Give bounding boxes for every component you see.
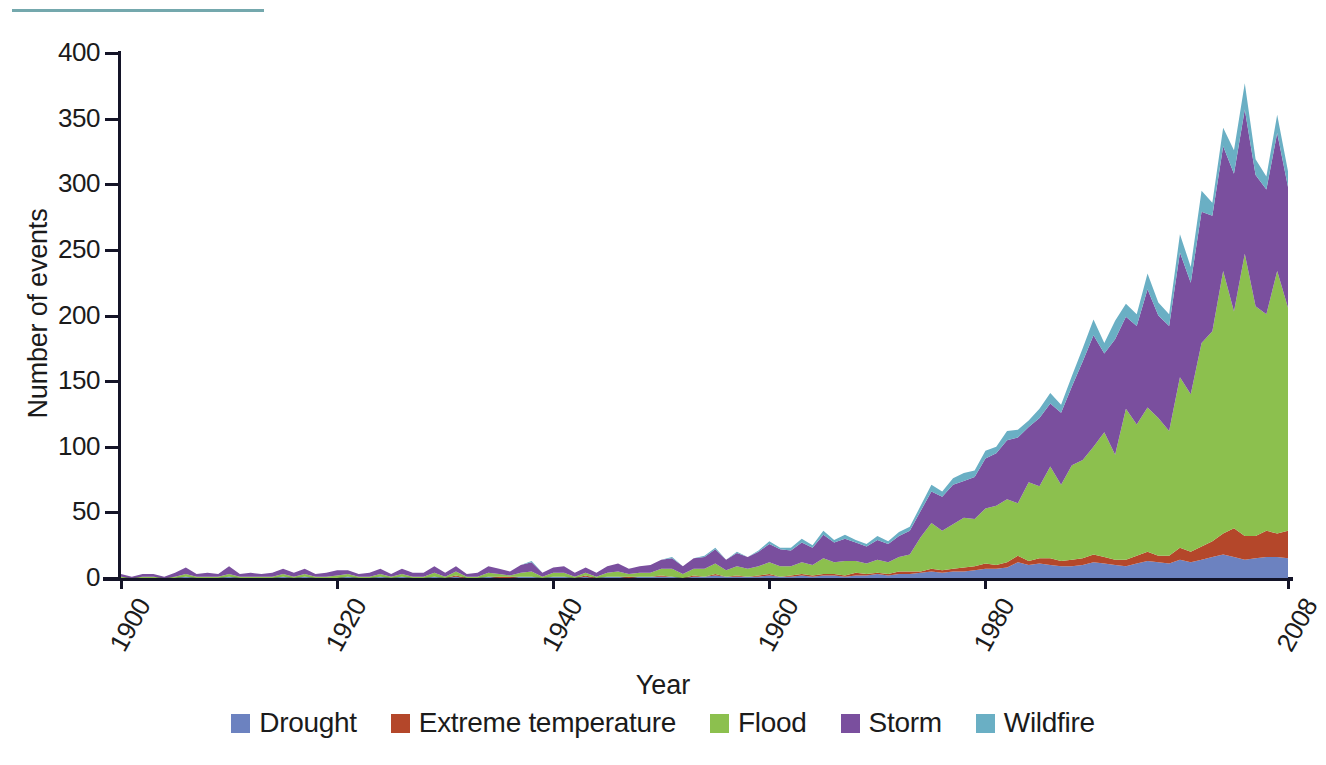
- y-tick-mark: [105, 183, 119, 186]
- chart-legend: DroughtExtreme temperatureFloodStormWild…: [0, 709, 1326, 737]
- x-tick-mark: [1287, 578, 1290, 589]
- legend-item-storm[interactable]: Storm: [841, 709, 942, 737]
- y-tick-label: 200: [30, 302, 100, 328]
- legend-swatch-icon: [710, 714, 729, 733]
- y-tick-mark: [105, 446, 119, 449]
- x-tick-label: 2008: [1272, 594, 1322, 655]
- stacked-area-plot: [121, 53, 1288, 578]
- legend-label: Storm: [869, 709, 942, 737]
- x-tick-mark: [120, 578, 123, 589]
- legend-label: Drought: [259, 709, 357, 737]
- x-tick-label: 1940: [537, 594, 587, 655]
- y-tick-label: 50: [30, 498, 100, 524]
- top-divider-rule: [12, 9, 264, 12]
- legend-swatch-icon: [391, 714, 410, 733]
- plot-area: [121, 53, 1288, 578]
- legend-swatch-icon: [231, 714, 250, 733]
- x-tick-mark: [984, 578, 987, 589]
- legend-swatch-icon: [841, 714, 860, 733]
- y-tick-label: 400: [30, 39, 100, 65]
- legend-item-extreme-temperature[interactable]: Extreme temperature: [391, 709, 676, 737]
- legend-item-drought[interactable]: Drought: [231, 709, 357, 737]
- x-tick-label: 1960: [753, 594, 803, 655]
- x-tick-mark: [336, 578, 339, 589]
- legend-swatch-icon: [976, 714, 995, 733]
- stacked-area-chart-figure: Number of events 05010015020025030035040…: [0, 0, 1326, 765]
- y-tick-mark: [105, 380, 119, 383]
- y-tick-label: 0: [30, 564, 100, 590]
- x-tick-label: 1920: [321, 594, 371, 655]
- legend-item-flood[interactable]: Flood: [710, 709, 807, 737]
- x-tick-mark: [768, 578, 771, 589]
- y-tick-mark: [105, 577, 119, 580]
- y-tick-label: 350: [30, 105, 100, 131]
- y-tick-label: 150: [30, 367, 100, 393]
- y-tick-mark: [105, 52, 119, 55]
- legend-label: Extreme temperature: [419, 709, 676, 737]
- y-tick-label: 300: [30, 170, 100, 196]
- x-axis-title: Year: [0, 672, 1326, 699]
- x-tick-label: 1980: [969, 594, 1019, 655]
- legend-label: Flood: [738, 709, 807, 737]
- legend-item-wildfire[interactable]: Wildfire: [976, 709, 1095, 737]
- y-tick-label: 100: [30, 433, 100, 459]
- x-tick-mark: [552, 578, 555, 589]
- y-tick-label: 250: [30, 236, 100, 262]
- y-tick-mark: [105, 315, 119, 318]
- legend-label: Wildfire: [1004, 709, 1095, 737]
- x-tick-label: 1900: [105, 594, 155, 655]
- y-tick-mark: [105, 511, 119, 514]
- y-tick-mark: [105, 249, 119, 252]
- y-tick-mark: [105, 118, 119, 121]
